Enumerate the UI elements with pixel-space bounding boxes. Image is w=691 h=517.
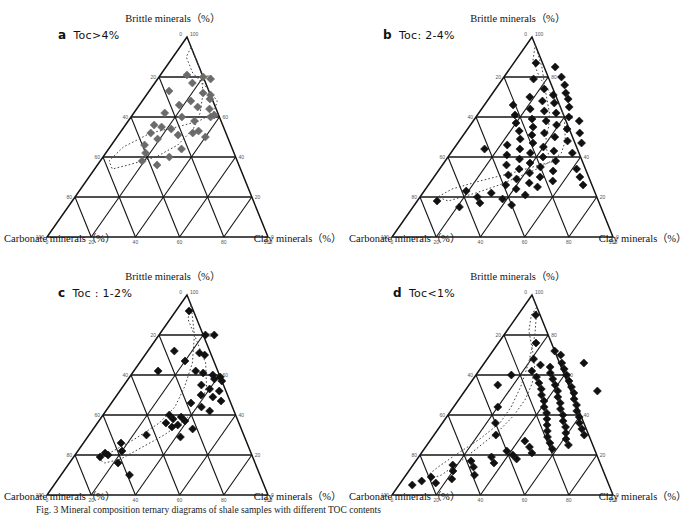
data-point-diamond bbox=[551, 347, 559, 355]
data-point-diamond bbox=[528, 367, 536, 375]
axis-tick-label: 0 bbox=[524, 289, 527, 295]
data-point-diamond bbox=[540, 129, 548, 137]
axis-tick-label: 20 bbox=[600, 194, 606, 200]
data-point-diamond bbox=[549, 167, 557, 175]
data-point-diamond bbox=[491, 419, 499, 427]
axis-tick-label: 80 bbox=[551, 332, 557, 338]
data-point-diamond bbox=[494, 403, 502, 411]
axis-tick-label: 80 bbox=[566, 239, 572, 245]
data-point-diamond bbox=[593, 387, 601, 395]
axis-tick-label: 40 bbox=[133, 239, 139, 245]
data-point-diamond bbox=[197, 381, 205, 389]
axis-title-right-d: Clay minerals（%） bbox=[599, 488, 686, 503]
data-point-diamond bbox=[147, 129, 155, 137]
ternary-tick-labels: 010020406080100806040200020406080100 bbox=[36, 289, 274, 503]
figure-caption: Fig. 3 Mineral composition ternary diagr… bbox=[36, 505, 381, 515]
axis-tick-label: 80 bbox=[411, 194, 417, 200]
data-point-diamond bbox=[165, 153, 173, 161]
data-point-diamond bbox=[539, 153, 547, 161]
data-point-diamond bbox=[557, 73, 565, 81]
axis-tick-label: 80 bbox=[411, 452, 417, 458]
axis-tick-label: 20 bbox=[150, 332, 156, 338]
data-point-diamond bbox=[529, 123, 537, 131]
axis-tick-label: 80 bbox=[566, 497, 572, 503]
axis-tick-label: 40 bbox=[122, 372, 128, 378]
data-point-diamond bbox=[201, 133, 209, 141]
data-point-diamond bbox=[504, 171, 512, 179]
data-point-diamond bbox=[530, 355, 538, 363]
axis-tick-label: 60 bbox=[522, 239, 528, 245]
data-point-diamond bbox=[516, 135, 524, 143]
ternary-tick-labels: 010020406080100806040200020406080100 bbox=[381, 289, 619, 503]
ternary-outline bbox=[47, 295, 268, 495]
axis-tick-label: 60 bbox=[177, 497, 183, 503]
data-point-diamond bbox=[209, 393, 217, 401]
data-point-diamond bbox=[206, 105, 214, 113]
data-point-diamond bbox=[215, 387, 223, 395]
axis-tick-label: 80 bbox=[66, 452, 72, 458]
data-point-diamond bbox=[578, 139, 586, 147]
data-point-diamond bbox=[536, 163, 544, 171]
data-point-diamond bbox=[494, 381, 502, 389]
data-point-diamond bbox=[521, 437, 529, 445]
data-point-diamond bbox=[154, 135, 162, 143]
axis-tick-label: 40 bbox=[478, 239, 484, 245]
axis-tick-label: 80 bbox=[66, 194, 72, 200]
data-point-diamond bbox=[153, 161, 161, 169]
axis-tick-label: 20 bbox=[255, 452, 261, 458]
data-point-diamond bbox=[528, 115, 536, 123]
data-point-diamond bbox=[455, 203, 463, 211]
data-point-diamond bbox=[536, 361, 544, 369]
ternary-plot-c: 010020406080100806040200020406080100 bbox=[0, 258, 345, 508]
data-point-diamond bbox=[538, 97, 546, 105]
data-point-diamond bbox=[161, 109, 169, 117]
data-point-diamond bbox=[178, 113, 186, 121]
axis-tick-label: 40 bbox=[478, 497, 484, 503]
favorable-field-boundary bbox=[428, 307, 537, 479]
data-point-diamond bbox=[530, 75, 538, 83]
axis-tick-label: 20 bbox=[495, 332, 501, 338]
ternary-gridlines bbox=[392, 295, 613, 495]
data-point-diamond bbox=[579, 181, 587, 189]
data-point-diamond bbox=[551, 63, 559, 71]
data-point-diamond bbox=[170, 347, 178, 355]
axis-tick-label: 40 bbox=[239, 154, 245, 160]
data-point-diamond bbox=[552, 109, 560, 117]
axis-tick-label: 40 bbox=[467, 372, 473, 378]
ternary-panel-c: Brittle minerals（%） cToc : 1-2% 01002040… bbox=[0, 258, 345, 508]
data-point-diamond bbox=[191, 117, 199, 125]
axis-tick-label: 20 bbox=[600, 452, 606, 458]
axis-tick-label: 60 bbox=[522, 497, 528, 503]
axis-tick-label: 20 bbox=[150, 74, 156, 80]
data-point-diamond bbox=[508, 201, 516, 209]
axis-tick-label: 60 bbox=[94, 154, 100, 160]
axis-tick-label: 60 bbox=[177, 239, 183, 245]
axis-title-left-d: Carbonate minerals（%） bbox=[349, 488, 460, 503]
data-point-diamond bbox=[521, 191, 529, 199]
data-point-diamond bbox=[549, 177, 557, 185]
axis-tick-label: 100 bbox=[535, 289, 544, 295]
data-point-diamond bbox=[576, 129, 584, 137]
data-point-diamond bbox=[532, 339, 540, 347]
data-point-diamond bbox=[575, 117, 583, 125]
data-point-diamond bbox=[568, 149, 576, 157]
axis-tick-label: 40 bbox=[584, 154, 590, 160]
figure-container: Brittle minerals（%） aToc>4% 010020406080… bbox=[0, 0, 691, 517]
axis-tick-label: 80 bbox=[551, 74, 557, 80]
ternary-panel-a: Brittle minerals（%） aToc>4% 010020406080… bbox=[0, 0, 345, 250]
axis-tick-label: 40 bbox=[133, 497, 139, 503]
data-point-diamond bbox=[526, 159, 534, 167]
data-point-diamond bbox=[449, 467, 457, 475]
data-point-diamond bbox=[199, 89, 207, 97]
data-point-diamond bbox=[516, 145, 524, 153]
data-point-diamond bbox=[192, 367, 200, 375]
data-point-diamond bbox=[217, 397, 225, 405]
data-point-diamond bbox=[512, 119, 520, 127]
ternary-plot-a: 010020406080100806040200020406080100 bbox=[0, 0, 345, 250]
axis-tick-label: 0 bbox=[179, 31, 182, 37]
data-point-diamond bbox=[503, 151, 511, 159]
axis-title-left-a: Carbonate minerals（%） bbox=[4, 230, 115, 245]
axis-title-left-c: Carbonate minerals（%） bbox=[4, 488, 115, 503]
data-point-diamond bbox=[181, 357, 189, 365]
axis-tick-label: 40 bbox=[122, 114, 128, 120]
